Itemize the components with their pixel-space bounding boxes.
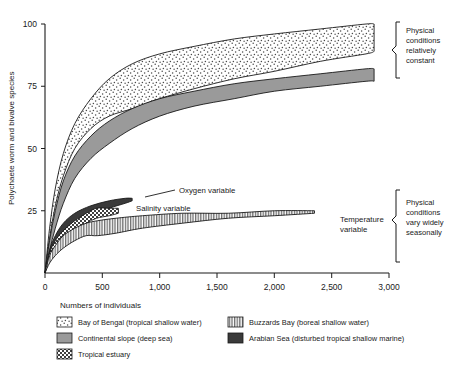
bracket-lower-shape xyxy=(392,190,400,262)
y-ticks: 100 75 50 25 xyxy=(23,19,45,216)
bracket-lower-line2: conditions xyxy=(406,208,440,217)
y-tick-label-75: 75 xyxy=(28,81,38,91)
y-tick-label-100: 100 xyxy=(23,19,37,29)
bracket-upper-shape xyxy=(392,22,400,78)
legend-label-tropical-estuary: Tropical estuary xyxy=(78,350,131,359)
y-tick-label-50: 50 xyxy=(28,144,38,154)
bracket-lower: Physical conditions vary widely seasonal… xyxy=(392,190,444,262)
x-tick-label-2000: 2,000 xyxy=(264,282,286,292)
legend-swatch-continental-slope xyxy=(57,333,72,343)
annotation-temperature: Temperature variable xyxy=(340,215,384,234)
species-accumulation-chart: 100 75 50 25 0 500 1,000 1,500 2,000 2,5… xyxy=(0,0,466,385)
x-tick-label-1500: 1,500 xyxy=(206,282,228,292)
legend-swatch-buzzards-bay xyxy=(228,317,243,327)
x-tick-label-1000: 1,000 xyxy=(149,282,171,292)
bracket-lower-line1: Physical xyxy=(406,198,435,207)
bracket-upper-line2: conditions xyxy=(406,36,440,45)
temperature-label-line1: Temperature xyxy=(340,215,384,224)
bracket-lower-line4: seasonally xyxy=(406,228,442,237)
salinity-label: Salinity variable xyxy=(136,204,191,213)
bracket-upper: Physical conditions relatively constant xyxy=(392,22,440,78)
bracket-upper-line1: Physical xyxy=(406,26,435,35)
chart-root: 100 75 50 25 0 500 1,000 1,500 2,000 2,5… xyxy=(0,0,466,385)
legend-label-arabian-sea: Arabian Sea (disturbed tropical shallow … xyxy=(249,334,404,343)
x-tick-label-0: 0 xyxy=(43,282,48,292)
legend-swatch-arabian-sea xyxy=(228,333,243,343)
data-bands xyxy=(45,24,374,273)
temperature-label-line2: variable xyxy=(340,225,367,234)
x-tick-label-2500: 2,500 xyxy=(321,282,343,292)
x-ticks: 0 500 1,000 1,500 2,000 2,500 3,000 xyxy=(43,273,400,292)
x-axis-title: Numbers of individuals xyxy=(60,301,141,310)
legend: Bay of Bengal (tropical shallow water) B… xyxy=(57,317,404,359)
x-tick-label-500: 500 xyxy=(95,282,109,292)
oxygen-label: Oxygen variable xyxy=(179,186,235,195)
y-axis-title: Polychaete worm and bivalve species xyxy=(7,72,16,205)
oxygen-leader-line xyxy=(145,190,175,197)
legend-label-buzzards-bay: Buzzards Bay (boreal shallow water) xyxy=(249,318,369,327)
legend-label-bay-of-bengal: Bay of Bengal (tropical shallow water) xyxy=(78,318,202,327)
legend-swatch-tropical-estuary xyxy=(57,349,72,359)
bracket-lower-line3: vary widely xyxy=(406,218,444,227)
annotation-salinity: Salinity variable xyxy=(136,204,191,213)
annotation-oxygen: Oxygen variable xyxy=(145,186,235,197)
y-tick-label-25: 25 xyxy=(28,206,38,216)
x-tick-label-3000: 3,000 xyxy=(378,282,400,292)
legend-label-continental-slope: Continental slope (deep sea) xyxy=(78,334,173,343)
bracket-upper-line4: constant xyxy=(406,56,436,65)
legend-swatch-bay-of-bengal xyxy=(57,317,72,327)
bracket-upper-line3: relatively xyxy=(406,46,436,55)
